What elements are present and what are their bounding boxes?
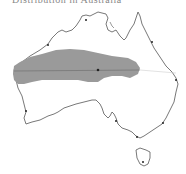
marker-dot [142,161,144,163]
city-markers [25,19,177,163]
tasmania-outline [136,148,150,166]
distribution-range [13,49,140,84]
marker-dot [115,120,117,122]
marker-dot [175,79,177,81]
marker-dot [25,110,27,112]
marker-dot [151,41,153,43]
marker-dot [136,136,138,138]
marker-dot [47,44,49,46]
marker-dot [97,69,100,72]
marker-dot [85,19,87,21]
marker-dot [162,122,164,124]
coast-detail [110,22,114,28]
australia-map [0,0,186,174]
